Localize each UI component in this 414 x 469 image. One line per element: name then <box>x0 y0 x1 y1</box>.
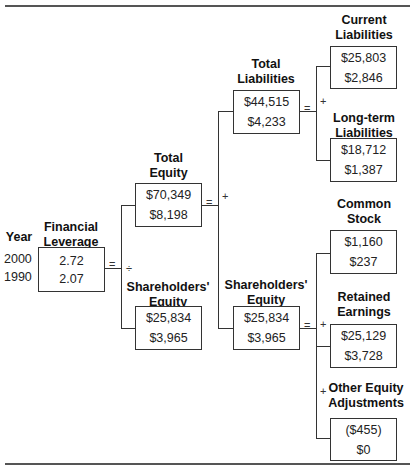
financial-leverage-2000: 2.72 <box>59 254 83 268</box>
current-liabilities-title: Current Liabilities <box>325 13 403 43</box>
current-liabilities-box: $25,803 $2,846 <box>330 46 397 89</box>
other-equity-adjustments-title: Other Equity Adjustments <box>326 381 406 411</box>
financial-leverage-1990: 2.07 <box>59 272 83 286</box>
financial-leverage-title: Financial Leverage <box>36 220 106 250</box>
connector <box>316 66 330 67</box>
connector <box>121 328 135 329</box>
equals-operator: = <box>304 102 310 114</box>
retained-earnings-box: $25,129 $3,728 <box>330 324 397 368</box>
equals-operator: = <box>206 196 212 208</box>
connector <box>316 438 330 439</box>
total-liabilities-title: Total Liabilities <box>228 57 304 87</box>
connector <box>316 66 317 161</box>
year-2000: 2000 <box>4 252 32 266</box>
connector <box>316 160 330 161</box>
shareholders-equity-mid-title: Shareholders' Equity <box>216 278 316 308</box>
connector <box>316 346 330 347</box>
year-1990: 1990 <box>4 270 32 284</box>
other-equity-adjustments-box: ($455) $0 <box>330 418 397 461</box>
plus-operator: + <box>320 95 326 107</box>
long-term-liabilities-box: $18,712 $1,387 <box>330 138 397 182</box>
plus-operator: + <box>222 190 228 202</box>
shareholders-equity-mid-box: $25,834 $3,965 <box>233 306 300 350</box>
total-equity-box: $70,349 $8,198 <box>135 183 202 227</box>
connector <box>218 328 233 329</box>
long-term-liabilities-title: Long-term Liabilities <box>325 111 403 141</box>
financial-leverage-box: 2.72 2.07 <box>38 247 105 292</box>
bottom-rule <box>5 463 410 465</box>
retained-earnings-title: Retained Earnings <box>325 290 403 320</box>
total-equity-title: Total Equity <box>135 151 202 181</box>
connector <box>121 205 122 329</box>
common-stock-box: $1,160 $237 <box>330 230 397 274</box>
connector <box>121 205 135 206</box>
divide-operator: ÷ <box>126 262 132 274</box>
connector <box>316 253 330 254</box>
equals-operator: = <box>304 319 310 331</box>
top-rule <box>5 5 410 7</box>
total-liabilities-box: $44,515 $4,233 <box>233 90 300 134</box>
shareholders-equity-left-box: $25,834 $3,965 <box>135 306 202 350</box>
connector <box>218 111 233 112</box>
year-header: Year <box>3 230 35 245</box>
equals-operator: = <box>109 258 115 270</box>
common-stock-title: Common Stock <box>325 197 403 227</box>
